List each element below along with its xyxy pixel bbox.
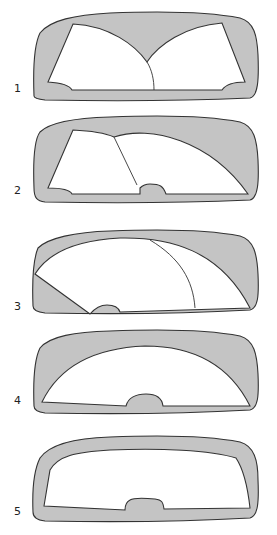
panel-label-4: 4 (14, 394, 21, 407)
panel-label-5: 5 (14, 505, 21, 518)
panel-4: 4 (0, 310, 277, 420)
panel-label-2: 2 (14, 184, 21, 197)
panel-5: 5 (0, 420, 277, 535)
panel-3: 3 (0, 210, 277, 320)
windshield-diagram-1 (0, 0, 277, 105)
panel-1: 1 (0, 0, 277, 105)
windshield-diagram-4 (0, 310, 277, 420)
panel-label-1: 1 (14, 82, 21, 95)
panel-2: 2 (0, 100, 277, 210)
windshield-diagram-2 (0, 100, 277, 210)
windshield-diagram-5 (0, 420, 277, 535)
windshield-diagram-3 (0, 210, 277, 320)
